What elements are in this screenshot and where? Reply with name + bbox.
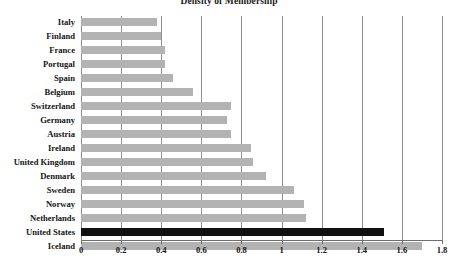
gridline-1.2: [322, 16, 323, 240]
bar-italy: [81, 18, 157, 26]
category-label-finland: Finland: [0, 31, 75, 41]
tick-label-1.2: 1.2: [307, 245, 337, 255]
tick-label-1.6: 1.6: [387, 245, 417, 255]
bar-ireland: [81, 144, 251, 152]
category-axis-labels: ItalyFinlandFrancePortugalSpainBelgiumSw…: [0, 16, 78, 240]
bar-sweden: [81, 186, 294, 194]
category-label-sweden: Sweden: [0, 185, 75, 195]
bar-belgium: [81, 88, 193, 96]
category-label-austria: Austria: [0, 129, 75, 139]
bar-united-kingdom: [81, 158, 253, 166]
bar-spain: [81, 74, 173, 82]
bar-united-states: [81, 228, 384, 236]
category-label-spain: Spain: [0, 73, 75, 83]
category-label-switzerland: Switzerland: [0, 101, 75, 111]
category-label-france: France: [0, 45, 75, 55]
category-label-iceland: Iceland: [0, 241, 75, 251]
bar-norway: [81, 200, 304, 208]
bar-netherlands: [81, 214, 306, 222]
x-axis-line: [81, 240, 443, 241]
tick-label-0.4: 0.4: [146, 245, 176, 255]
tick-label-0: 0: [66, 245, 96, 255]
tick-mark-0.2: [121, 240, 122, 244]
tick-label-0.8: 0.8: [226, 245, 256, 255]
category-label-italy: Italy: [0, 17, 75, 27]
bar-austria: [81, 130, 231, 138]
category-label-netherlands: Netherlands: [0, 213, 75, 223]
category-label-portugal: Portugal: [0, 59, 75, 69]
chart-container: Density of Membership ItalyFinlandFrance…: [0, 0, 458, 262]
gridline-1.8: [442, 16, 443, 240]
category-label-united-kingdom: United Kingdom: [0, 157, 75, 167]
category-label-germany: Germany: [0, 115, 75, 125]
tick-mark-1.4: [362, 240, 363, 244]
tick-mark-0.8: [241, 240, 242, 244]
tick-mark-1.6: [402, 240, 403, 244]
tick-mark-0.6: [201, 240, 202, 244]
bar-denmark: [81, 172, 266, 180]
tick-mark-0.4: [161, 240, 162, 244]
tick-mark-1.2: [322, 240, 323, 244]
category-label-ireland: Ireland: [0, 143, 75, 153]
chart-title: Density of Membership: [0, 0, 458, 6]
bar-france: [81, 46, 165, 54]
tick-label-1.4: 1.4: [347, 245, 377, 255]
tick-label-0.6: 0.6: [186, 245, 216, 255]
category-label-norway: Norway: [0, 199, 75, 209]
tick-label-1.8: 1.8: [427, 245, 457, 255]
category-label-denmark: Denmark: [0, 171, 75, 181]
bar-switzerland: [81, 102, 231, 110]
tick-label-0.2: 0.2: [106, 245, 136, 255]
tick-label-1: 1: [267, 245, 297, 255]
tick-mark-1: [282, 240, 283, 244]
tick-mark-0: [81, 240, 82, 244]
bar-portugal: [81, 60, 165, 68]
plot-area: [81, 16, 442, 240]
gridline-1.6: [402, 16, 403, 240]
category-label-united-states: United States: [0, 227, 75, 237]
bar-germany: [81, 116, 227, 124]
tick-mark-1.8: [442, 240, 443, 244]
bar-finland: [81, 32, 161, 40]
gridline-1.4: [362, 16, 363, 240]
category-label-belgium: Belgium: [0, 87, 75, 97]
